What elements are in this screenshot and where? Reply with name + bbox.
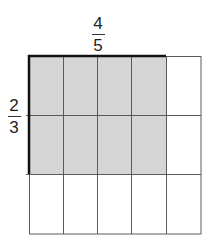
area-model-grid <box>0 0 211 246</box>
